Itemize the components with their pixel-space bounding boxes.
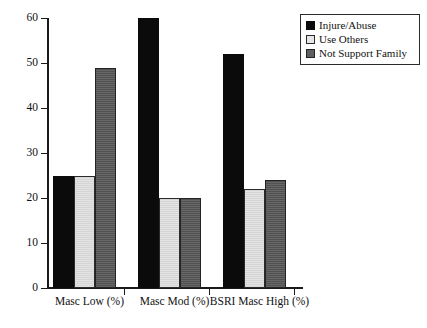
y-tick-label-text: 30: [8, 147, 38, 159]
y-tick-label: 40: [0, 102, 38, 114]
legend-swatch-icon: [306, 49, 315, 58]
bar: [244, 189, 265, 288]
legend-item-label: Injure/Abuse: [319, 20, 376, 31]
y-tick-label-text: 10: [8, 237, 38, 249]
y-tick-label: 20: [0, 192, 38, 204]
bar-chart-figure: 0102030405060 Masc Low (%)Masc Mod (%)BS…: [0, 0, 427, 328]
bar: [159, 198, 180, 288]
bar: [223, 54, 244, 288]
legend-item: Use Others: [306, 33, 414, 46]
y-tick-label: 60: [0, 12, 38, 24]
y-tick-label: 30: [0, 147, 38, 159]
y-tick-label-text: 60: [8, 12, 38, 24]
y-tick-label-text: 20: [8, 192, 38, 204]
legend-swatch-icon: [306, 21, 315, 30]
chart-legend: Injure/AbuseUse OthersNot Support Family: [300, 14, 420, 65]
legend-item: Not Support Family: [306, 47, 414, 60]
bar: [95, 68, 116, 289]
y-tick-label: 50: [0, 57, 38, 69]
plot-area: [47, 18, 302, 288]
y-tick-label: 10: [0, 237, 38, 249]
y-tick-mark: [41, 288, 47, 289]
x-axis-group-label: BSRI Masc High (%): [207, 295, 312, 308]
legend-item-label: Use Others: [319, 34, 368, 45]
bar: [138, 18, 159, 288]
y-tick-label-text: 40: [8, 102, 38, 114]
legend-swatch-icon: [306, 35, 315, 44]
bar: [53, 176, 74, 289]
y-tick-label-text: 50: [8, 57, 38, 69]
y-tick-label-text: 0: [8, 282, 38, 294]
bar: [265, 180, 286, 288]
legend-item: Injure/Abuse: [306, 19, 414, 32]
y-tick-label: 0: [0, 282, 38, 294]
bar: [74, 176, 95, 289]
legend-item-label: Not Support Family: [319, 48, 407, 59]
bar: [180, 198, 201, 288]
